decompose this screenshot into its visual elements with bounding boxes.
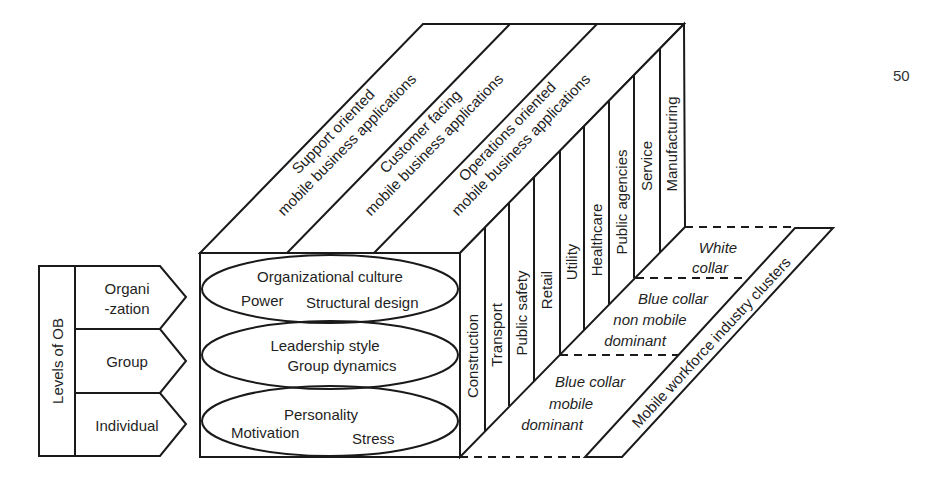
cluster-blue-nonmobile-line3: dominant [604,332,667,349]
level-organization-line1: Organi [104,280,149,297]
levels-of-ob-title: Levels of OB [49,318,66,404]
cluster-blue-mobile-line3: dominant [521,416,584,433]
page-number: 50 [893,67,910,84]
factor-structural-design: Structural design [306,294,419,311]
factor-personality: Personality [284,406,359,423]
industry-transport: Transport [488,302,505,366]
level-organization-line2: -zation [104,300,149,317]
front-face-ob-factors: Organizational culture Power Structural … [200,253,460,457]
industry-utility: Utility [563,243,580,280]
level-group-label: Group [106,353,148,370]
industry-manufacturing: Manufacturing [663,96,680,191]
cluster-white-collar-line1: White [699,239,737,256]
factor-power: Power [241,292,284,309]
industry-retail: Retail [538,271,555,309]
cluster-blue-mobile-line1: Blue collar [555,373,626,390]
industry-service: Service [638,141,655,191]
level-individual-label: Individual [95,417,158,434]
industry-construction: Construction [464,314,481,398]
cluster-blue-mobile-line2: mobile [549,395,593,412]
cluster-blue-nonmobile-line1: Blue collar [638,290,709,307]
factor-leadership-style: Leadership style [270,337,379,354]
level-arrow-organization [75,266,186,329]
factor-organizational-culture: Organizational culture [257,268,403,285]
cluster-white-collar-line2: collar [692,259,729,276]
levels-of-ob-panel: Levels of OB Organi -zation Group Indivi… [39,266,186,456]
cluster-blue-nonmobile-line2: non mobile [613,311,686,328]
industry-healthcare: Healthcare [588,204,605,277]
industry-public-safety: Public safety [513,270,530,356]
ob-mobile-workforce-diagram: 50 Levels of OB Organi -zation Group Ind… [0,0,949,486]
factor-stress: Stress [352,430,395,447]
factor-group-dynamics: Group dynamics [287,357,396,374]
factor-motivation: Motivation [231,424,299,441]
industry-public-agencies: Public agencies [613,149,630,254]
